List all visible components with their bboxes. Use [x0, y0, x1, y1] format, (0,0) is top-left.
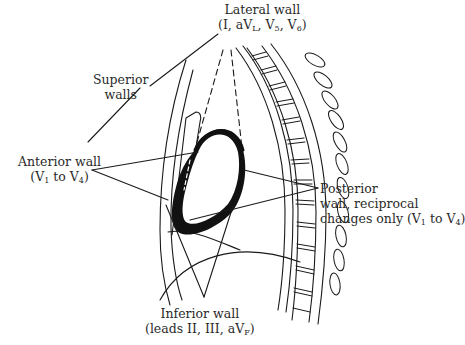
- label-lateral-wall: Lateral wall (I, aVL, V5, V6): [218, 2, 307, 32]
- posterior-wall-line3: changes only (V1 to V4): [320, 211, 465, 226]
- leader-anterior-bottom: [92, 170, 168, 200]
- lateral-wall-title: Lateral wall: [218, 2, 307, 17]
- posterior-wall-line1: Posterior: [320, 181, 465, 196]
- spinous-processes: [303, 50, 351, 295]
- label-anterior-wall: Anterior wall (V1 to V4): [18, 154, 101, 184]
- diaphragm: [160, 252, 300, 300]
- inferior-wall-leads: (leads II, III, aVF): [145, 321, 255, 336]
- leader-anterior-top: [92, 152, 198, 170]
- leader-lateral: [150, 34, 218, 86]
- lateral-wall-leads: (I, aVL, V5, V6): [218, 17, 307, 32]
- pleura-lower: [168, 231, 240, 250]
- anterior-wall-leads: (V1 to V4): [18, 169, 101, 184]
- superior-walls-line2: walls: [93, 87, 149, 102]
- anterior-wall-title: Anterior wall: [18, 154, 101, 169]
- label-posterior-wall: Posterior wall, reciprocal changes only …: [320, 181, 465, 226]
- label-inferior-wall: Inferior wall (leads II, III, aVF): [145, 306, 255, 336]
- posterior-wall-line2: wall, reciprocal: [320, 196, 465, 211]
- inferior-wall-title: Inferior wall: [145, 306, 255, 321]
- superior-walls-line1: Superior: [93, 72, 149, 87]
- label-superior-walls: Superior walls: [93, 72, 149, 102]
- leader-posterior-top: [244, 170, 318, 188]
